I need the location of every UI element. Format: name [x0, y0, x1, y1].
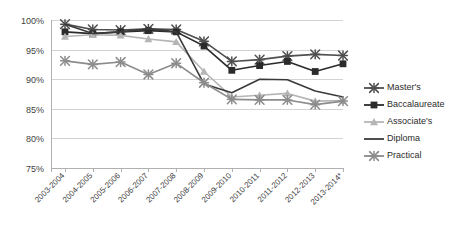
legend-item-master-s[interactable]: Master's [364, 82, 421, 92]
legend-label: Master's [387, 82, 421, 92]
y-axis-tick-label: 90% [26, 75, 44, 85]
chart-container: 100%95%90%85%80%75%2003-20042004-2005200… [0, 0, 464, 240]
y-axis-tick-label: 75% [26, 164, 44, 174]
y-axis-tick-label: 80% [26, 134, 44, 144]
y-axis-tick-label: 100% [21, 16, 44, 26]
line-chart: 100%95%90%85%80%75%2003-20042004-2005200… [0, 0, 464, 240]
x-axis-labels: 2003-20042004-20052005-20062006-20072007… [33, 171, 344, 207]
y-axis-tick-label: 95% [26, 46, 44, 56]
y-axis-tick-label: 85% [26, 105, 44, 115]
legend-item-diploma[interactable]: Diploma [364, 133, 420, 143]
legend-label: Baccalaureate [387, 99, 445, 109]
legend: Master'sBaccalaureateAssociate'sDiplomaP… [364, 82, 445, 160]
data-series-practical [61, 56, 348, 109]
legend-item-baccalaureate[interactable]: Baccalaureate [364, 99, 445, 109]
legend-label: Diploma [387, 133, 420, 143]
legend-item-associate-s[interactable]: Associate's [364, 116, 433, 126]
legend-label: Practical [387, 150, 422, 160]
legend-label: Associate's [387, 116, 433, 126]
legend-item-practical[interactable]: Practical [364, 150, 422, 160]
